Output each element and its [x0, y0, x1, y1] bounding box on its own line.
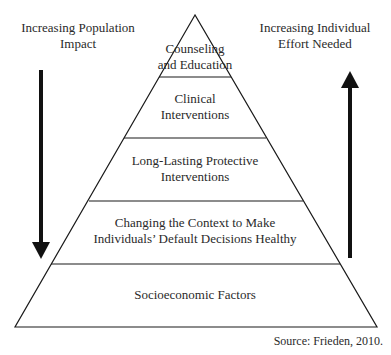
left-label-line1: Increasing Population	[8, 20, 148, 36]
down-arrow-icon	[32, 70, 50, 259]
tier-socioeconomic-factors: Socioeconomic Factors	[100, 287, 290, 303]
right-label-line1: Increasing Individual	[250, 20, 380, 36]
tier-changing-context: Changing the Context to Make Individuals…	[70, 215, 320, 247]
tier-label: Changing the Context to Make	[70, 215, 320, 231]
tier-label: Clinical	[135, 91, 255, 107]
tier-label: Interventions	[110, 169, 280, 185]
tier-label: and Education	[145, 57, 245, 73]
left-label: Increasing Population Impact	[8, 20, 148, 52]
right-label-line2: Effort Needed	[250, 36, 380, 52]
tier-counseling-education: Counseling and Education	[145, 41, 245, 73]
tier-clinical-interventions: Clinical Interventions	[135, 91, 255, 123]
tier-long-lasting-protective: Long-Lasting Protective Interventions	[110, 153, 280, 185]
up-arrow-icon	[341, 71, 359, 258]
tier-label: Individuals’ Default Decisions Healthy	[70, 231, 320, 247]
right-label: Increasing Individual Effort Needed	[250, 20, 380, 52]
source-caption: Source: Frieden, 2010.	[270, 333, 383, 349]
tier-label: Socioeconomic Factors	[100, 287, 290, 303]
left-label-line2: Impact	[8, 36, 148, 52]
tier-label: Counseling	[145, 41, 245, 57]
tier-label: Interventions	[135, 107, 255, 123]
tier-label: Long-Lasting Protective	[110, 153, 280, 169]
